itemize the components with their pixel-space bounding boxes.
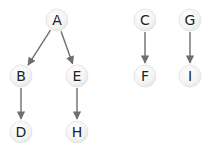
nodes-layer: ABEDHCFGI bbox=[10, 9, 201, 143]
node-label: C bbox=[140, 12, 150, 28]
edge-a-e bbox=[61, 31, 73, 63]
node-label: F bbox=[141, 68, 149, 84]
node-label: B bbox=[16, 68, 26, 84]
node-c: C bbox=[134, 9, 156, 31]
node-b: B bbox=[10, 65, 32, 87]
node-g: G bbox=[179, 9, 201, 31]
node-label: A bbox=[52, 12, 62, 28]
node-a: A bbox=[46, 9, 68, 31]
node-d: D bbox=[10, 121, 32, 143]
node-label: I bbox=[188, 68, 192, 84]
node-label: H bbox=[72, 124, 83, 140]
node-label: G bbox=[185, 12, 196, 28]
tree-diagram: ABEDHCFGI bbox=[0, 0, 211, 154]
node-label: D bbox=[16, 124, 27, 140]
node-f: F bbox=[134, 65, 156, 87]
node-h: H bbox=[66, 121, 88, 143]
node-e: E bbox=[66, 65, 88, 87]
node-label: E bbox=[73, 68, 82, 84]
node-i: I bbox=[179, 65, 201, 87]
edge-a-b bbox=[28, 30, 50, 65]
edges-layer bbox=[21, 30, 190, 119]
